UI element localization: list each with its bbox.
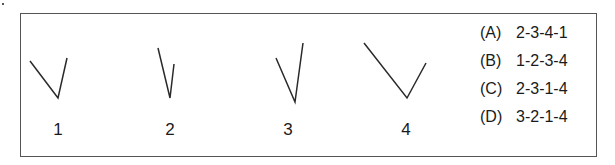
option-value: 3-2-1-4 xyxy=(516,108,568,125)
figure-label-3: 3 xyxy=(278,120,298,140)
angle-figure-1 xyxy=(30,58,67,98)
option-key: (B) xyxy=(480,51,516,71)
option-c[interactable]: (C)2-3-1-4 xyxy=(480,79,568,107)
figure-label-1: 1 xyxy=(48,120,68,140)
angle-figure-2 xyxy=(158,48,174,98)
angle-figure-4 xyxy=(364,43,426,98)
option-key: (A) xyxy=(480,23,516,43)
option-value: 2-3-1-4 xyxy=(516,80,568,97)
option-key: (C) xyxy=(480,79,516,99)
angle-figure-3 xyxy=(276,43,303,102)
answer-options: (A)2-3-4-1 (B)1-2-3-4 (C)2-3-1-4 (D)3-2-… xyxy=(480,23,568,135)
option-value: 1-2-3-4 xyxy=(516,52,568,69)
option-key: (D) xyxy=(480,107,516,127)
option-d[interactable]: (D)3-2-1-4 xyxy=(480,107,568,135)
option-a[interactable]: (A)2-3-4-1 xyxy=(480,23,568,51)
figure-label-4: 4 xyxy=(396,120,416,140)
option-b[interactable]: (B)1-2-3-4 xyxy=(480,51,568,79)
figure-label-2: 2 xyxy=(160,120,180,140)
option-value: 2-3-4-1 xyxy=(516,24,568,41)
